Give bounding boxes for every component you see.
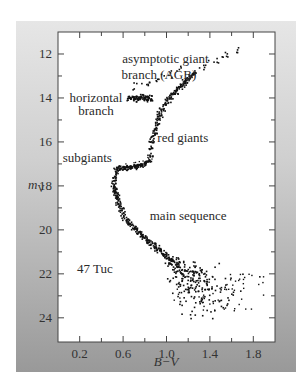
chart-panel: 0.20.61.01.41.812141618202224 asymptotic… (16, 21, 296, 372)
y-tick-label: 20 (39, 222, 52, 237)
annotation-label: red giants (157, 130, 208, 145)
y-tick-label: 12 (39, 46, 52, 61)
x-tick-label: 0.6 (115, 346, 132, 361)
cmd-scatter-plot: 0.20.61.01.41.812141618202224 asymptotic… (16, 21, 296, 372)
x-axis-title: B−V (154, 354, 181, 369)
annotation-label: subgiants (63, 150, 112, 165)
y-tick-label: 22 (39, 266, 52, 281)
y-axis-title-subscript: V (37, 183, 45, 194)
annotation-label: 47 Tuc (77, 261, 113, 276)
annotation-label: asymptotic giant (122, 51, 209, 66)
x-tick-label: 0.2 (72, 346, 88, 361)
annotation-label: branch (AGB) (122, 67, 197, 82)
annotation-label: main sequence (150, 208, 227, 223)
y-tick-label: 14 (39, 90, 53, 105)
y-axis-title-main: m (28, 177, 37, 192)
x-tick-label: 1.8 (245, 346, 261, 361)
x-tick-label: 1.4 (202, 346, 219, 361)
y-tick-label: 16 (39, 134, 53, 149)
annotation-label: branch (78, 103, 114, 118)
y-tick-label: 24 (39, 310, 53, 325)
